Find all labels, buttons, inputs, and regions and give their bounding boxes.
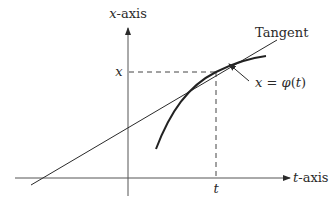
tangent-diagram: x-axis t-axis x t Tangent x = φ(t) (0, 0, 334, 207)
curve-pointer-arrow (229, 64, 249, 81)
curve-eq-close: ) (301, 75, 306, 90)
solution-curve (156, 56, 266, 149)
x-axis-label: x-axis (109, 6, 147, 21)
x-axis-label-suffix: -axis (117, 6, 147, 21)
t-tick-label: t (213, 181, 219, 196)
t-axis-label-suffix: -axis (298, 170, 328, 185)
curve-eq-equals: = (262, 75, 281, 90)
x-tick-label: x (115, 64, 123, 79)
tangent-label: Tangent (255, 25, 309, 40)
t-axis-label: t-axis (293, 170, 329, 185)
curve-equation-label: x = φ(t) (255, 75, 306, 90)
